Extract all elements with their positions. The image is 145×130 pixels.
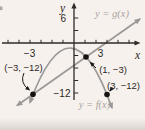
point-dot-3-neg12 xyxy=(104,92,110,98)
point-label-1-neg3: (1, −3) xyxy=(99,64,127,75)
y-tick-label-neg12: −12 xyxy=(54,88,71,99)
x-axis-arrowhead xyxy=(135,40,141,45)
point-dot-1-neg3 xyxy=(83,54,89,60)
x-axis xyxy=(2,40,141,45)
pointer-arrow-neg3-neg12 xyxy=(23,73,32,92)
x-axis-label: x xyxy=(134,49,141,61)
y-tick-label-6: 6 xyxy=(60,13,66,24)
x-tick-label-3: 3 xyxy=(98,48,104,59)
edge-artifact xyxy=(0,7,2,11)
point-label-neg3-neg12: (−3, −12) xyxy=(4,62,43,73)
function-graph-figure: y x 6 −12 −3 3 y = g(x) y = f(x) (−3, −1… xyxy=(0,0,145,130)
figure-canvas: y x 6 −12 −3 3 y = g(x) y = f(x) (−3, −1… xyxy=(0,0,145,130)
y-axis xyxy=(71,3,76,101)
f-function-label: y = f(x) xyxy=(78,99,111,111)
point-dot-neg3-neg12 xyxy=(30,92,36,98)
point-label-3-neg12: (3, −12) xyxy=(107,80,140,91)
x-tick-label-neg3: −3 xyxy=(24,48,36,59)
y-axis-arrowhead xyxy=(71,3,76,9)
g-function-label: y = g(x) xyxy=(94,8,129,20)
